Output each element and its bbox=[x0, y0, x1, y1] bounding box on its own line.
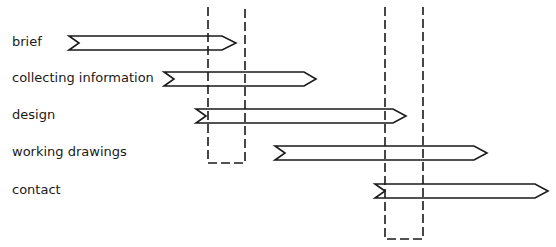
overlap-zone-1-dashed-box bbox=[208, 7, 245, 163]
phase-arrow bbox=[375, 184, 548, 198]
phase-arrow bbox=[69, 36, 236, 50]
phase-arrow bbox=[164, 72, 316, 86]
phase-arrow bbox=[196, 109, 406, 123]
phase-arrow bbox=[275, 146, 487, 160]
diagram-canvas bbox=[0, 0, 556, 247]
